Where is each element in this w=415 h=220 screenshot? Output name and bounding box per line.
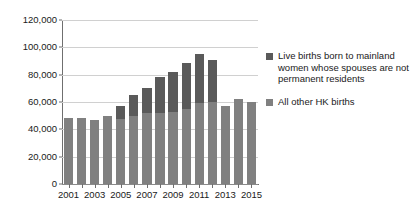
bar-segment[interactable] — [208, 102, 217, 184]
bar-segment[interactable] — [195, 54, 204, 103]
bar-column[interactable] — [64, 20, 73, 184]
bar-segment[interactable] — [168, 72, 177, 112]
y-axis-tick-label: 60,000 — [28, 97, 62, 107]
bar-column[interactable] — [195, 20, 204, 184]
bar-segment[interactable] — [182, 109, 191, 184]
bar-column[interactable] — [234, 20, 243, 184]
bar-column[interactable] — [129, 20, 138, 184]
x-axis-tick-label: 2011 — [189, 190, 209, 200]
x-axis-tick-mark — [225, 184, 226, 188]
x-axis-tick-mark — [251, 184, 252, 188]
bar-segment[interactable] — [64, 118, 73, 184]
bar-segment[interactable] — [208, 60, 217, 103]
legend-swatch-icon — [266, 53, 273, 60]
bar-segment[interactable] — [103, 116, 112, 184]
y-axis-tick-label: 80,000 — [28, 70, 62, 80]
bar-segment[interactable] — [116, 106, 125, 119]
legend-entry[interactable]: All other HK births — [266, 96, 412, 108]
bar-column[interactable] — [168, 20, 177, 184]
x-axis-tick-label: 2015 — [241, 190, 262, 200]
bar-segment[interactable] — [90, 120, 99, 184]
bar-column[interactable] — [116, 20, 125, 184]
bar-segment[interactable] — [221, 106, 230, 184]
x-axis-tick-label: 2001 — [58, 190, 79, 200]
x-axis-tick-mark — [160, 184, 161, 188]
x-axis-tick-label: 2005 — [110, 190, 131, 200]
bar-segment[interactable] — [247, 102, 256, 184]
y-axis-tick-label: 0 — [52, 179, 62, 189]
x-axis-tick-mark — [95, 184, 96, 188]
bar-segment[interactable] — [234, 99, 243, 184]
bar-segment[interactable] — [142, 88, 151, 113]
bar-column[interactable] — [247, 20, 256, 184]
bar-segment[interactable] — [116, 119, 125, 184]
legend-entry[interactable]: Live births born to mainland women whose… — [266, 50, 412, 85]
x-axis-tick-mark — [238, 184, 239, 188]
legend-swatch-icon — [266, 99, 273, 106]
x-axis-tick-mark — [69, 184, 70, 188]
y-axis-tick-label: 100,000 — [23, 43, 62, 53]
bar-segment[interactable] — [77, 118, 86, 184]
bar-segment[interactable] — [155, 113, 164, 184]
legend-label: All other HK births — [278, 96, 412, 108]
bar-series-container — [62, 20, 258, 184]
bar-column[interactable] — [142, 20, 151, 184]
bar-column[interactable] — [90, 20, 99, 184]
bar-column[interactable] — [208, 20, 217, 184]
x-axis-tick-mark — [82, 184, 83, 188]
bar-column[interactable] — [182, 20, 191, 184]
x-axis-tick-mark — [199, 184, 200, 188]
x-axis-tick-label: 2007 — [136, 190, 157, 200]
x-axis-tick-label: 2003 — [84, 190, 105, 200]
y-axis-tick-label: 40,000 — [28, 125, 62, 135]
bar-segment[interactable] — [142, 113, 151, 184]
bar-segment[interactable] — [195, 103, 204, 184]
bar-segment[interactable] — [182, 63, 191, 109]
legend-label: Live births born to mainland women whose… — [278, 50, 412, 85]
x-axis-tick-mark — [212, 184, 213, 188]
x-axis-tick-mark — [121, 184, 122, 188]
x-axis-tick-mark — [108, 184, 109, 188]
bar-segment[interactable] — [155, 77, 164, 114]
x-axis-tick-mark — [186, 184, 187, 188]
chart-legend: Live births born to mainland women whose… — [266, 50, 412, 118]
x-axis-tick-mark — [134, 184, 135, 188]
y-axis-tick-label: 120,000 — [23, 15, 62, 25]
x-axis-tick-label: 2013 — [215, 190, 236, 200]
bar-column[interactable] — [221, 20, 230, 184]
plot-area: 020,00040,00060,00080,000100,000120,000 — [62, 20, 258, 184]
x-axis-tick-mark — [173, 184, 174, 188]
x-axis-tick-mark — [147, 184, 148, 188]
bar-column[interactable] — [103, 20, 112, 184]
bar-column[interactable] — [155, 20, 164, 184]
y-axis-tick-label: 20,000 — [28, 152, 62, 162]
bar-segment[interactable] — [129, 116, 138, 184]
births-stacked-bar-chart: 020,00040,00060,00080,000100,000120,000 … — [0, 0, 415, 220]
bar-column[interactable] — [77, 20, 86, 184]
bar-segment[interactable] — [129, 95, 138, 117]
bar-segment[interactable] — [168, 112, 177, 184]
x-axis-tick-label: 2009 — [162, 190, 183, 200]
